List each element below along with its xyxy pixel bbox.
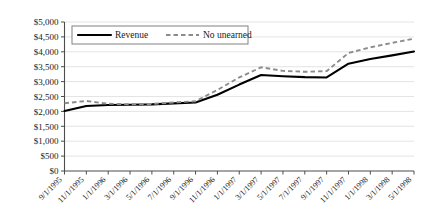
- x-tick-label: 5/1/1998: [386, 175, 413, 202]
- y-tick-label: $3,500: [34, 62, 59, 72]
- y-tick-label: $5,000: [34, 17, 59, 27]
- y-tick-label: $2,000: [34, 107, 59, 117]
- line-chart: $0$500$1,000$1,500$2,000$2,500$3,000$3,5…: [0, 0, 421, 224]
- x-axis: [65, 171, 415, 175]
- legend-label-revenue: Revenue: [115, 30, 148, 40]
- y-tick-label: $1,000: [34, 136, 59, 146]
- chart-canvas: $0$500$1,000$1,500$2,000$2,500$3,000$3,5…: [0, 0, 421, 224]
- series-line-no-unearned: [65, 39, 415, 105]
- y-tick-label: $500: [41, 151, 60, 161]
- y-axis: [61, 22, 65, 171]
- data-series: [65, 39, 415, 111]
- y-tick-label: $2,500: [34, 92, 59, 102]
- y-tick-label: $1,500: [34, 122, 59, 132]
- y-tick-label: $3,000: [34, 77, 59, 87]
- legend-label-no-unearned: No unearned: [203, 30, 252, 40]
- y-tick-label: $4,500: [34, 32, 59, 42]
- y-tick-labels: $0$500$1,000$1,500$2,000$2,500$3,000$3,5…: [34, 17, 59, 176]
- x-tick-labels: 9/1/199511/1/19951/1/19963/1/19965/1/199…: [37, 175, 413, 205]
- y-tick-label: $0: [50, 166, 60, 176]
- chart-legend: RevenueNo unearned: [72, 26, 252, 44]
- y-tick-label: $4,000: [34, 47, 59, 57]
